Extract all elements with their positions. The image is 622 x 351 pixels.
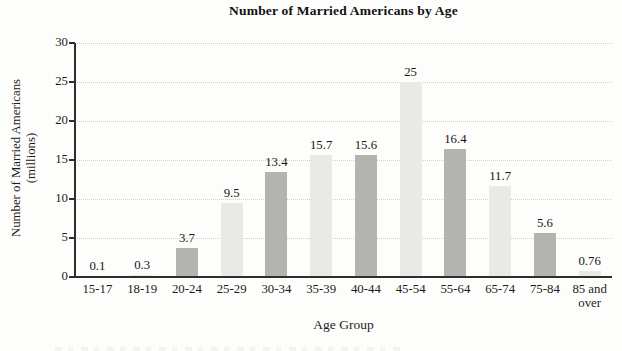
bar-35-39 bbox=[310, 155, 332, 277]
gridline-20 bbox=[75, 121, 612, 122]
category-label: 20-24 bbox=[162, 282, 212, 296]
category-label: 15-17 bbox=[72, 282, 122, 296]
category-label: 30-34 bbox=[251, 282, 301, 296]
bar-20-24 bbox=[176, 248, 198, 277]
category-label: 45-54 bbox=[386, 282, 436, 296]
bar-value-label: 25 bbox=[387, 65, 435, 80]
category-label: 75-84 bbox=[520, 282, 570, 296]
bar-55-64 bbox=[444, 149, 466, 277]
bar-value-label: 0.1 bbox=[73, 259, 121, 274]
y-tick-label-5: 5 bbox=[32, 230, 68, 245]
x-axis-title: Age Group bbox=[75, 317, 612, 333]
bar-65-74 bbox=[489, 186, 511, 277]
bar-value-label: 3.7 bbox=[163, 231, 211, 246]
gridline-30 bbox=[75, 43, 612, 44]
category-label: 18-19 bbox=[117, 282, 167, 296]
y-axis-title-line1: Number of Married Americans bbox=[9, 28, 24, 288]
category-label: 40-44 bbox=[341, 282, 391, 296]
bar-value-label: 15.6 bbox=[342, 138, 390, 153]
bar-value-label: 16.4 bbox=[431, 132, 479, 147]
y-tick-label-0: 0 bbox=[32, 269, 68, 284]
y-tick-label-30: 30 bbox=[32, 35, 68, 50]
category-label: 85 and over bbox=[565, 282, 615, 310]
y-tick-label-15: 15 bbox=[32, 152, 68, 167]
bar-40-44 bbox=[355, 155, 377, 277]
category-label: 25-29 bbox=[207, 282, 257, 296]
bar-value-label: 0.76 bbox=[566, 254, 614, 269]
bar-chart-figure: Number of Married Americans by Age Numbe… bbox=[0, 0, 622, 351]
category-label: 65-74 bbox=[475, 282, 525, 296]
gridline-10 bbox=[75, 199, 612, 200]
category-label: 55-64 bbox=[430, 282, 480, 296]
bar-value-label: 13.4 bbox=[252, 155, 300, 170]
gridline-25 bbox=[75, 82, 612, 83]
bar-45-54 bbox=[400, 82, 422, 277]
y-tick-label-25: 25 bbox=[32, 74, 68, 89]
bar-value-label: 5.6 bbox=[521, 216, 569, 231]
bar-value-label: 0.3 bbox=[118, 258, 166, 273]
chart-title: Number of Married Americans by Age bbox=[75, 3, 612, 19]
y-tick-label-20: 20 bbox=[32, 113, 68, 128]
x-axis bbox=[74, 276, 612, 278]
bar-value-label: 11.7 bbox=[476, 169, 524, 184]
y-tick-label-10: 10 bbox=[32, 191, 68, 206]
bar-30-34 bbox=[265, 172, 287, 277]
gridline-15 bbox=[75, 160, 612, 161]
bar-value-label: 15.7 bbox=[297, 138, 345, 153]
bar-value-label: 9.5 bbox=[208, 186, 256, 201]
bar-25-29 bbox=[221, 203, 243, 277]
bar-75-84 bbox=[534, 233, 556, 277]
y-axis bbox=[74, 43, 76, 278]
category-label: 35-39 bbox=[296, 282, 346, 296]
clipped-source-text-artifact bbox=[55, 347, 405, 351]
gridline-5 bbox=[75, 238, 612, 239]
